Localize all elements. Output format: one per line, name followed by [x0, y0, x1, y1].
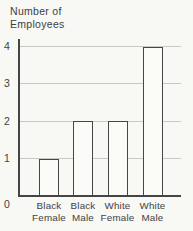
y-axis-line: [18, 39, 20, 197]
chart-title-line-1: Number of: [10, 5, 65, 18]
x-category-label-white-male: White Male: [126, 200, 180, 223]
y-tick-label-1: 1: [4, 153, 14, 164]
y-tick-label-3: 3: [4, 78, 14, 89]
bar-black-male: [73, 121, 93, 196]
y-tick-label-0: 0: [4, 199, 14, 210]
chart-title-line-2: Employees: [10, 18, 65, 31]
bar-white-female: [108, 121, 128, 196]
chart-title: Number of Employees: [10, 5, 65, 31]
bar-chart: Number of Employees 01234 Black FemaleBl…: [0, 0, 193, 231]
bar-white-male: [143, 47, 163, 196]
y-tick-label-4: 4: [4, 41, 14, 52]
y-tick-label-2: 2: [4, 116, 14, 127]
bar-black-female: [39, 159, 59, 196]
